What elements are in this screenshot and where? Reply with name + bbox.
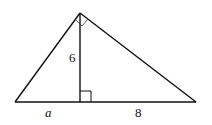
right-angle-marker-apex <box>75 19 88 26</box>
right-segment-label: 8 <box>135 105 142 120</box>
altitude-label: 6 <box>69 50 76 65</box>
left-segment-label: a <box>45 105 52 120</box>
triangle-diagram: 6 a 8 <box>0 0 212 125</box>
right-side <box>80 13 196 102</box>
right-angle-marker-foot <box>80 91 91 102</box>
